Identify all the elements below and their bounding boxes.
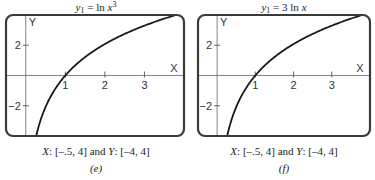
caption-x-range: : [–.5, 4] and	[237, 145, 296, 157]
window-range-caption: X: [–.5, 4] and Y: [–4, 4]	[41, 145, 149, 157]
panel-label: (f)	[279, 162, 290, 175]
y-axis-label: Y	[29, 16, 37, 28]
title-superscript: 3	[112, 0, 116, 9]
function-curve	[227, 13, 370, 137]
x-axis-label: X	[356, 62, 364, 74]
y-tick-label: −2	[200, 100, 213, 112]
title-equals: = 3 ln	[270, 1, 301, 13]
function-curve	[36, 13, 184, 137]
y-axis-label: Y	[220, 16, 228, 28]
chart-panel-f: 1232−2XYy1 = 3 ln xX: [–.5, 4] and Y: [–…	[198, 1, 370, 175]
x-tick-label: 3	[329, 79, 335, 91]
chart-panel-e: 1232−2XYy1 = ln x3X: [–.5, 4] and Y: [–4…	[6, 0, 184, 175]
x-tick-label: 1	[252, 79, 258, 91]
chart-title: y1 = 3 ln x	[260, 1, 306, 15]
x-tick-label: 2	[290, 79, 296, 91]
caption-x-range: : [–.5, 4] and	[49, 145, 108, 157]
title-variable: x	[301, 1, 307, 13]
x-axis-label: X	[170, 62, 178, 74]
figure: 1232−2XYy1 = ln x3X: [–.5, 4] and Y: [–4…	[0, 0, 375, 180]
y-tick-label: 2	[206, 39, 212, 51]
y-tick-label: 2	[15, 39, 21, 51]
x-tick-label: 2	[102, 79, 108, 91]
x-tick-label: 3	[141, 79, 147, 91]
window-range-caption: X: [–.5, 4] and Y: [–4, 4]	[229, 145, 337, 157]
caption-y-range: : [–4, 4]	[114, 145, 149, 157]
panel-label: (e)	[90, 162, 103, 175]
x-tick-label: 1	[62, 79, 68, 91]
caption-y-range: : [–4, 4]	[302, 145, 337, 157]
chart-title: y1 = ln x3	[75, 0, 117, 15]
title-equals: = ln	[84, 1, 107, 13]
y-tick-label: −2	[8, 100, 21, 112]
